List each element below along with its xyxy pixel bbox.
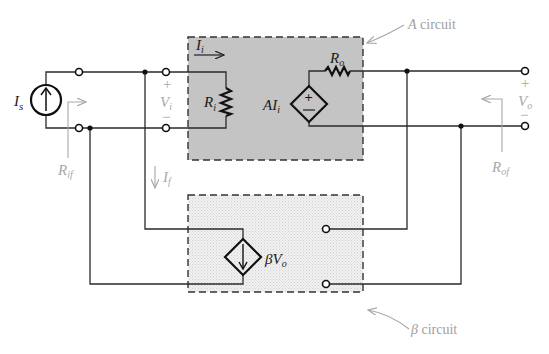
a-circuit-pointer-icon [367,25,404,43]
vi-plus: + [162,76,172,92]
a-circuit-caption: A circuit [407,17,456,32]
junction-dot [87,125,92,130]
input-terminal-top [76,69,83,76]
rof-label: Rof [491,159,510,177]
beta-circuit-caption: β circuit [410,322,457,337]
vo-minus: − [519,107,529,123]
feedback-circuit-diagram: Is Ri Ii + Vi − Rif If + AIi Ro + Vo − [0,0,549,354]
beta-circuit-pointer-icon [368,310,409,329]
if-label: If [162,169,172,187]
source-label: Is [13,93,23,112]
output-terminal-top [522,68,529,75]
input-terminal-bottom [76,125,83,132]
output-terminal-bottom [522,123,529,130]
beta-terminal-bottom [323,281,330,288]
current-source-icon [31,85,61,115]
vi-minus: − [161,109,171,125]
a-input-terminal-bottom [163,125,170,132]
junction-dot [404,68,409,73]
beta-terminal-top [323,226,330,233]
junction-dot [142,69,147,74]
a-input-terminal-top [163,69,170,76]
rif-label: Rif [57,162,74,180]
vo-plus: + [520,75,530,91]
beta-circuit-box [188,195,363,292]
svg-text:+: + [304,91,313,104]
junction-dot [458,123,463,128]
